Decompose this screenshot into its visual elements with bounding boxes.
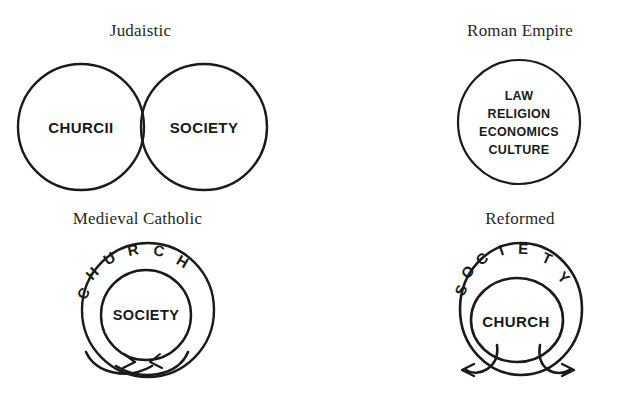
svg-text:H: H: [174, 251, 192, 271]
reformed-arrows: [462, 345, 574, 376]
svg-text:E: E: [518, 240, 529, 257]
diagram-reformed: S O C I E T Y CHURCH: [451, 240, 582, 376]
svg-text:C: C: [73, 285, 93, 303]
reformed-outer-arc-label: S O C I E T Y: [451, 240, 573, 298]
svg-text:T: T: [540, 248, 555, 267]
reformed-inner-label: CHURCH: [482, 313, 549, 330]
roman-item-culture: CULTURE: [489, 143, 550, 157]
judaistic-church-label: CHURCII: [48, 119, 113, 136]
diagram-canvas: CHURCII SOCIETY LAW RELIGION ECONOMICS C…: [0, 0, 622, 419]
judaistic-society-label: SOCIETY: [170, 119, 239, 136]
diagram-roman-empire: LAW RELIGION ECONOMICS CULTURE: [458, 60, 580, 184]
svg-text:Y: Y: [554, 268, 573, 287]
diagram-medieval-catholic: C H U R C H SOCIETY: [73, 240, 214, 377]
svg-text:S: S: [451, 282, 471, 298]
roman-item-religion: RELIGION: [488, 107, 551, 121]
roman-item-economics: ECONOMICS: [479, 125, 559, 139]
medieval-inner-label: SOCIETY: [113, 307, 179, 323]
roman-item-law: LAW: [505, 89, 534, 103]
roman-empire-circle: [458, 60, 580, 184]
svg-text:I: I: [496, 241, 505, 258]
svg-text:C: C: [152, 241, 166, 260]
diagram-judaistic: CHURCII SOCIETY: [18, 64, 267, 190]
